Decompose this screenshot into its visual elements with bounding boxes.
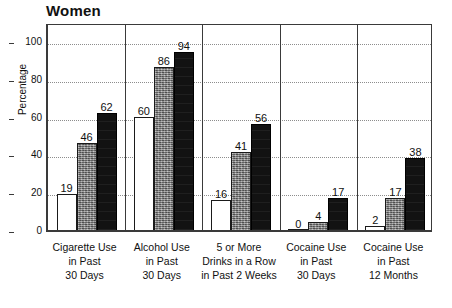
- y-tick-label-20: 20: [14, 187, 42, 198]
- chart-page: Women Percentage 020406080100 1946626086…: [0, 0, 452, 308]
- gridline-80: [48, 82, 431, 83]
- bar-group-3-series-2[interactable]: [328, 198, 348, 230]
- category-label-3-line-1: in Past: [272, 254, 361, 268]
- category-label-0-line-1: in Past: [40, 254, 129, 268]
- plot-area: 194662608694164156041721738: [46, 24, 432, 232]
- bar-group-1-series-2[interactable]: [174, 52, 194, 230]
- y-tick-label-40: 40: [14, 149, 42, 160]
- value-label-group-1-series-2: 94: [166, 40, 202, 52]
- bar-group-0-series-2[interactable]: [97, 113, 117, 230]
- bar-group-1-series-1[interactable]: [154, 67, 174, 230]
- y-tick-mark-20: [9, 194, 14, 195]
- category-label-0: Cigarette Usein Past30 Days: [40, 240, 129, 282]
- bar-group-0-series-1[interactable]: [77, 143, 97, 230]
- category-label-0-line-2: 30 Days: [40, 268, 129, 282]
- group-separator-4: [357, 25, 358, 230]
- y-tick-mark-80: [9, 81, 14, 82]
- y-tick-label-0: 0: [14, 225, 42, 236]
- bar-group-3-series-1[interactable]: [308, 222, 328, 230]
- category-label-2: 5 or MoreDrinks in a Rowin Past 2 Weeks: [194, 240, 283, 282]
- category-label-3-line-0: Cocaine Use: [272, 240, 361, 254]
- chart-title: Women: [46, 2, 101, 19]
- bar-group-2-series-2[interactable]: [251, 124, 271, 230]
- category-label-4: Cocaine Usein Past12 Months: [349, 240, 438, 282]
- category-label-1-line-2: 30 Days: [117, 268, 206, 282]
- bar-group-4-series-0[interactable]: [365, 226, 385, 230]
- category-label-4-line-2: 12 Months: [349, 268, 438, 282]
- bar-group-2-series-1[interactable]: [231, 152, 251, 230]
- y-tick-mark-0: [9, 232, 14, 233]
- y-tick-label-80: 80: [14, 74, 42, 85]
- category-label-1: Alcohol Usein Past30 Days: [117, 240, 206, 282]
- category-label-4-line-0: Cocaine Use: [349, 240, 438, 254]
- y-tick-mark-100: [9, 43, 14, 44]
- category-label-1-line-0: Alcohol Use: [117, 240, 206, 254]
- category-label-0-line-0: Cigarette Use: [40, 240, 129, 254]
- gridline-100: [48, 44, 431, 45]
- y-tick-mark-40: [9, 156, 14, 157]
- category-label-1-line-1: in Past: [117, 254, 206, 268]
- x-axis-category-labels: Cigarette Usein Past30 DaysAlcohol Usein…: [46, 240, 432, 300]
- bar-group-1-series-0[interactable]: [134, 117, 154, 230]
- category-label-4-line-1: in Past: [349, 254, 438, 268]
- category-label-2-line-0: 5 or More: [194, 240, 283, 254]
- y-tick-mark-60: [9, 119, 14, 120]
- value-label-group-0-series-2: 62: [89, 101, 125, 113]
- y-tick-label-100: 100: [14, 36, 42, 47]
- bar-group-4-series-2[interactable]: [405, 158, 425, 230]
- value-label-group-2-series-2: 56: [243, 112, 279, 124]
- value-label-group-4-series-2: 38: [397, 146, 433, 158]
- category-label-3: Cocaine Usein Past30 Days: [272, 240, 361, 282]
- y-axis-tick-labels: 020406080100: [12, 24, 42, 232]
- category-label-2-line-1: Drinks in a Row: [194, 254, 283, 268]
- bar-group-2-series-0[interactable]: [211, 200, 231, 230]
- bar-group-4-series-1[interactable]: [385, 198, 405, 230]
- y-tick-label-60: 60: [14, 112, 42, 123]
- category-label-3-line-2: 30 Days: [272, 268, 361, 282]
- category-label-2-line-2: in Past 2 Weeks: [194, 268, 283, 282]
- group-separator-1: [125, 25, 126, 230]
- bar-group-0-series-0[interactable]: [57, 194, 77, 230]
- plot-inner: 194662608694164156041721738: [48, 25, 431, 230]
- group-separator-3: [280, 25, 281, 230]
- value-label-group-3-series-2: 17: [320, 186, 356, 198]
